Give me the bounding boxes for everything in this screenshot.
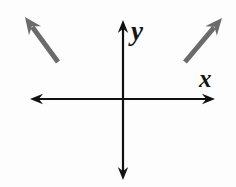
vector-arrow-upper-right (185, 18, 222, 62)
vector-shaft (185, 27, 214, 62)
coordinate-plane-figure: y x (0, 0, 236, 187)
vector-shaft (32, 27, 58, 62)
y-axis-label: y (131, 18, 143, 45)
x-axis-label: x (199, 66, 212, 91)
coordinate-diagram-canvas (0, 0, 236, 187)
vector-arrow-upper-left (25, 17, 58, 62)
